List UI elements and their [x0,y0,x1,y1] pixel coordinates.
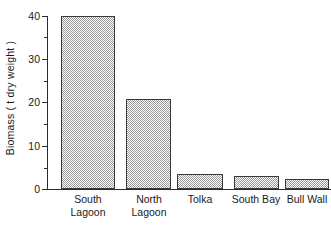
x-label-line2: Lagoon [53,206,123,219]
bar-south-lagoon[interactable] [61,16,115,189]
x-label-line1: South [53,193,123,206]
x-axis-labels: South Lagoon North Lagoon Tolka South Ba… [0,193,331,232]
y-tick-major-0 [42,189,48,190]
x-label-line2: Lagoon [114,206,184,219]
bar-south-bay[interactable] [234,176,279,189]
x-label-line1: Bull Wall [272,193,331,206]
bar-tolka[interactable] [177,174,223,189]
x-label-bull-wall: Bull Wall [272,193,331,206]
bar-bull-wall[interactable] [285,179,329,189]
x-label-south-lagoon: South Lagoon [53,193,123,219]
x-axis-line [47,189,331,190]
bars-layer [0,0,331,189]
bar-chart: Biomass ( t dry weight ) 40 30 20 10 0 S… [0,0,331,232]
bar-north-lagoon[interactable] [126,99,171,189]
